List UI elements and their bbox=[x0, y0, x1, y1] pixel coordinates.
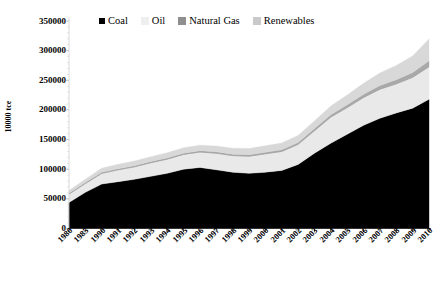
stacked-area-chart: 10000 tce 050000100000150000200000250000… bbox=[0, 0, 437, 282]
plot-area bbox=[0, 0, 437, 282]
